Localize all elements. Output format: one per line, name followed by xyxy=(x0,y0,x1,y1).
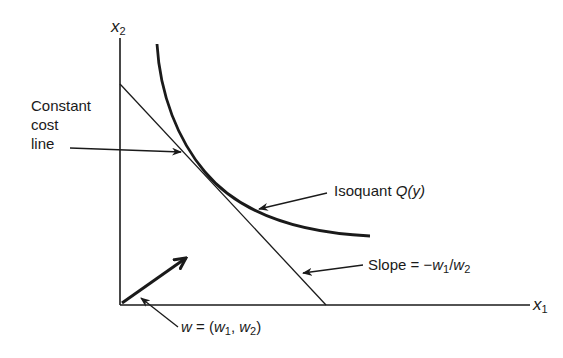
slope-label: Slope = −w1/w2 xyxy=(368,256,470,278)
price-vector-label: w = (w1, w2) xyxy=(181,318,261,340)
y-axis-label: x2 xyxy=(111,18,126,40)
isoquant-pointer xyxy=(259,193,327,209)
cost-line-label: Constant cost line xyxy=(31,96,91,153)
constant-cost-line xyxy=(120,84,326,305)
x-axis-label: x1 xyxy=(533,296,548,318)
vector-pointer xyxy=(141,298,178,327)
isoquant-label: Isoquant Q(y) xyxy=(334,182,425,200)
isoquant-curve xyxy=(157,44,370,236)
price-vector-w xyxy=(122,258,186,303)
slope-pointer xyxy=(303,265,363,273)
diagram-canvas xyxy=(0,0,563,358)
